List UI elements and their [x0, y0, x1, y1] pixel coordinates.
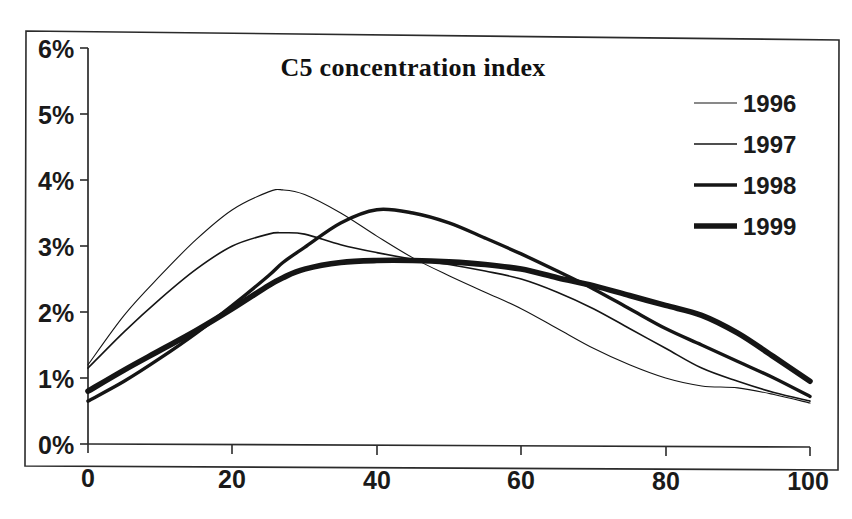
chart-figure: 6% 5% 4% 3% 2% 1% 0% 0 20 40 60 80 100 C… — [0, 0, 852, 519]
x-tick-label-20: 20 — [218, 465, 246, 493]
x-tick-label-60: 60 — [507, 466, 535, 494]
y-tick-label-4: 4% — [38, 167, 74, 195]
x-tick-label-80: 80 — [652, 467, 680, 495]
y-tick-label-3: 3% — [38, 233, 74, 261]
legend-label-1997: 1997 — [743, 131, 796, 158]
series-group — [88, 189, 810, 403]
x-tick-label-0: 0 — [81, 464, 95, 492]
x-axis — [88, 444, 810, 447]
x-tick-label-100: 100 — [787, 467, 829, 495]
y-tick-label-1: 1% — [38, 365, 74, 393]
y-tick-label-0: 0% — [38, 431, 74, 459]
series-line-1998 — [88, 209, 810, 401]
legend-label-1996: 1996 — [743, 90, 796, 117]
legend-label-1998: 1998 — [743, 172, 796, 199]
y-tick-label-2: 2% — [38, 299, 74, 327]
chart-title: C5 concentration index — [280, 53, 545, 82]
legend-item-1998[interactable]: 1998 — [694, 172, 796, 199]
series-line-1999 — [88, 260, 810, 391]
outer-frame — [25, 31, 839, 470]
legend-item-1997[interactable]: 1997 — [694, 131, 796, 158]
x-tick-label-40: 40 — [363, 466, 391, 494]
legend-item-1999[interactable]: 1999 — [694, 213, 796, 240]
y-tick-marks — [80, 48, 88, 444]
y-tick-label-5: 5% — [38, 101, 74, 129]
chart-canvas: 6% 5% 4% 3% 2% 1% 0% 0 20 40 60 80 100 C… — [0, 0, 852, 519]
legend-label-1999: 1999 — [743, 213, 796, 240]
legend-item-1996[interactable]: 1996 — [694, 90, 796, 117]
y-tick-label-6: 6% — [38, 35, 74, 63]
chart-legend: 1996199719981999 — [694, 90, 796, 240]
